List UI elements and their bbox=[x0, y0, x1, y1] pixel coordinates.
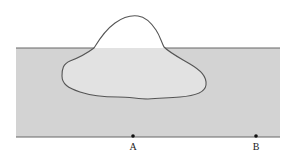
point-b-label: B bbox=[253, 141, 260, 151]
point-a-label: A bbox=[129, 141, 137, 151]
point-a-marker bbox=[131, 134, 135, 138]
point-b-marker bbox=[254, 134, 258, 138]
iceberg-diagram: A B bbox=[0, 0, 290, 151]
